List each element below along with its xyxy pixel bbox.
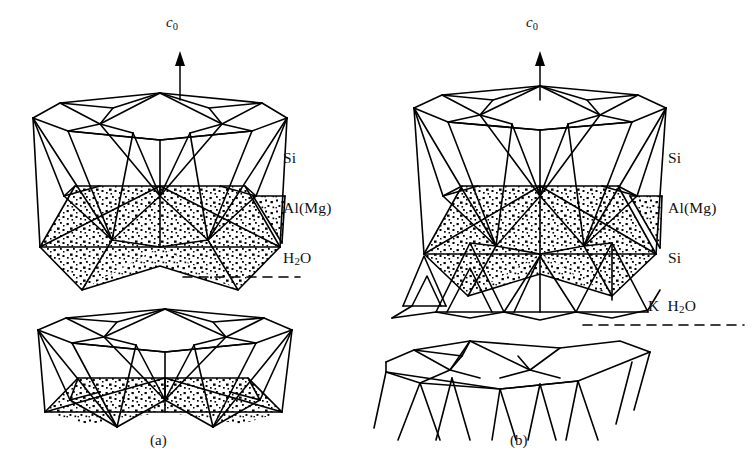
axis-arrow-b <box>535 51 545 100</box>
panel-b-lower-unit <box>374 341 650 440</box>
label-h2o-a: H2O <box>283 250 312 267</box>
axis-arrow-a <box>175 51 185 100</box>
axis-label-c0-a: c0 <box>166 14 178 32</box>
axis-label-c0-b: c0 <box>526 14 538 32</box>
panel-b-upper-octahedral-sheet <box>424 186 662 296</box>
label-si-upper-b: Si <box>668 150 681 166</box>
figure-root: c0 Si Al(Mg) H2O (a) c0 Si Al(Mg) Si K H… <box>0 0 754 476</box>
panel-a-upper-octahedral-sheet <box>40 186 285 290</box>
panel-b-upper-unit <box>392 86 666 320</box>
label-si-upper-a: Si <box>283 150 296 166</box>
label-k-h2o-b: K H2O <box>648 298 696 315</box>
label-si-lower-b: Si <box>668 250 681 266</box>
panel-a-lower-unit <box>38 309 292 427</box>
diagram-canvas <box>0 0 754 476</box>
label-al-mg-b: Al(Mg) <box>668 200 717 216</box>
panel-a-upper-unit <box>33 93 287 290</box>
caption-panel-b: (b) <box>510 432 528 449</box>
caption-panel-a: (a) <box>150 432 167 449</box>
label-al-mg-a: Al(Mg) <box>283 200 332 216</box>
